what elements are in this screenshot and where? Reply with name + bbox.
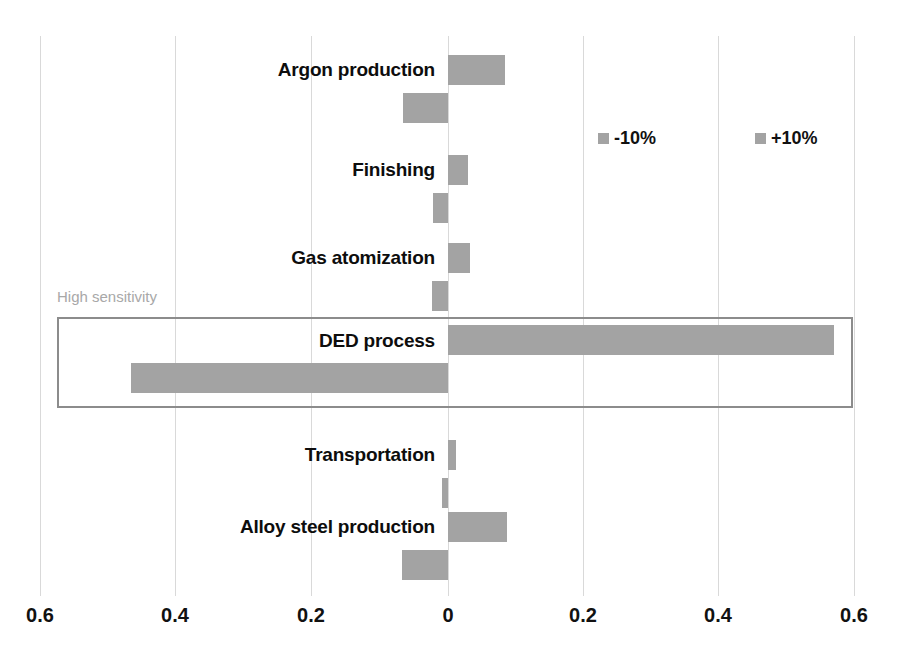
bar-transportation-plus10 (448, 440, 456, 470)
high-sensitivity-annotation: High sensitivity (57, 288, 157, 305)
xtick-label-pos-0-2: 0.2 (553, 604, 613, 627)
xtick-label-pos-0-6: 0.6 (824, 604, 884, 627)
bar-alloy-steel-production-plus10 (448, 512, 507, 542)
bar-argon-production-minus10 (403, 93, 448, 123)
bar-transportation-minus10 (442, 478, 448, 508)
xtick-label-neg-0-6: 0.6 (10, 604, 70, 627)
bar-argon-production-plus10 (448, 55, 505, 85)
bar-ded-process-plus10 (448, 325, 834, 355)
xtick-label-neg-0-2: 0.2 (281, 604, 341, 627)
category-label-argon-production: Argon production (10, 59, 435, 81)
category-label-transportation: Transportation (10, 444, 435, 466)
bar-finishing-plus10 (448, 155, 468, 185)
bar-finishing-minus10 (433, 193, 448, 223)
xtick-label-zero: 0 (418, 604, 478, 627)
category-label-alloy-steel-production: Alloy steel production (10, 516, 435, 538)
gridline-neg-0-6 (40, 36, 41, 596)
legend-swatch-plus10 (755, 133, 766, 144)
legend-item-minus10: -10% (598, 128, 656, 149)
category-label-ded-process: DED process (10, 330, 435, 352)
legend-swatch-minus10 (598, 133, 609, 144)
sensitivity-tornado-chart: Argon production Finishing Gas atomizati… (0, 0, 905, 651)
legend-label-plus10: +10% (771, 128, 818, 149)
category-label-gas-atomization: Gas atomization (10, 247, 435, 269)
plot-area: Argon production Finishing Gas atomizati… (0, 0, 905, 651)
gridline-neg-0-2 (311, 36, 312, 596)
bar-gas-atomization-plus10 (448, 243, 470, 273)
xtick-label-neg-0-4: 0.4 (145, 604, 205, 627)
bar-ded-process-minus10 (131, 363, 448, 393)
xtick-label-pos-0-4: 0.4 (688, 604, 748, 627)
category-label-finishing: Finishing (10, 159, 435, 181)
bar-gas-atomization-minus10 (432, 281, 448, 311)
bar-alloy-steel-production-minus10 (402, 550, 448, 580)
gridline-neg-0-4 (175, 36, 176, 596)
gridline-pos-0-2 (583, 36, 584, 596)
gridline-pos-0-6 (854, 36, 855, 596)
legend-item-plus10: +10% (755, 128, 818, 149)
legend-label-minus10: -10% (614, 128, 656, 149)
gridline-pos-0-4 (718, 36, 719, 596)
